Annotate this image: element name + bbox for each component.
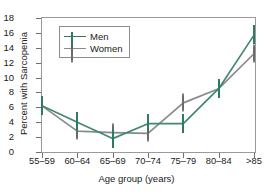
- y-tick-label: 2: [0, 132, 14, 141]
- legend-label-men: Men: [86, 31, 108, 42]
- y-tick-label: 4: [0, 117, 14, 126]
- legend-label-women: Women: [86, 43, 123, 54]
- y-tick-label: 10: [0, 73, 14, 82]
- circle-marker-icon: [253, 44, 255, 63]
- circle-marker-icon: [182, 93, 184, 112]
- legend-item-men: Men: [64, 30, 123, 42]
- y-tick-label: 12: [0, 58, 14, 67]
- y-tick-label: 8: [0, 87, 14, 96]
- y-tick-label: 14: [0, 43, 14, 52]
- y-tick-label: 18: [0, 13, 14, 22]
- data-point-women-4: [182, 94, 184, 112]
- legend-marker-women-icon: [64, 43, 86, 54]
- data-point-men-5: [218, 80, 220, 98]
- data-point-women-6: [253, 45, 255, 63]
- x-axis-title: Age group (years): [0, 173, 273, 184]
- data-point-men-0: [41, 97, 43, 115]
- square-marker-icon: [147, 114, 149, 133]
- square-marker-icon: [76, 112, 78, 131]
- chart-figure: Percent with Sarcopenia 024681012141618 …: [0, 0, 273, 195]
- chart-legend: Men Women: [59, 26, 130, 58]
- square-marker-icon: [218, 79, 220, 98]
- x-tick-label: >85: [231, 156, 273, 166]
- legend-item-women: Women: [64, 42, 123, 54]
- data-point-men-4: [182, 115, 184, 133]
- data-point-men-2: [112, 130, 114, 148]
- square-marker-icon: [182, 114, 184, 133]
- legend-marker-men-icon: [64, 31, 86, 42]
- data-point-men-6: [253, 26, 255, 44]
- square-marker-icon: [41, 96, 43, 115]
- data-point-men-1: [76, 113, 78, 131]
- data-point-men-3: [147, 115, 149, 133]
- y-tick-label: 6: [0, 102, 14, 111]
- square-marker-icon: [112, 129, 114, 148]
- y-tick-label: 0: [0, 147, 14, 156]
- square-marker-icon: [253, 25, 255, 44]
- y-axis-title: Percent with Sarcopenia: [18, 14, 29, 154]
- y-tick-label: 16: [0, 28, 14, 37]
